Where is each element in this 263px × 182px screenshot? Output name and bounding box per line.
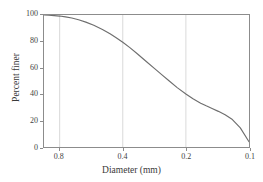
y-axis-tick-label: 80 <box>30 37 38 45</box>
x-axis-tick-label: 0.1 <box>245 153 255 161</box>
y-axis-tick-label: 20 <box>30 117 38 125</box>
y-axis-tick-mark <box>40 14 43 15</box>
y-axis-tick-mark <box>40 41 43 42</box>
y-axis-tick-mark <box>40 68 43 69</box>
x-axis-tick-mark <box>123 148 124 151</box>
x-axis-tick-label: 0.2 <box>181 153 191 161</box>
y-axis-tick-mark <box>40 121 43 122</box>
plot-area <box>43 14 250 148</box>
y-axis-tick-label: 0 <box>34 144 38 152</box>
grid-lines <box>60 15 186 147</box>
y-axis-tick-label: 40 <box>30 90 38 98</box>
x-axis-tick-label: 0.8 <box>54 153 64 161</box>
y-axis-tick-mark <box>40 94 43 95</box>
y-axis-tick-mark <box>40 148 43 149</box>
plot-canvas <box>44 15 249 147</box>
x-axis-title: Diameter (mm) <box>0 165 263 176</box>
y-axis-title: Percent finer <box>11 33 22 123</box>
y-axis-tick-label: 100 <box>26 10 38 18</box>
y-axis-tick-label: 60 <box>30 64 38 72</box>
data-series-layer <box>44 15 249 142</box>
x-axis-tick-label: 0.4 <box>118 153 128 161</box>
x-axis-tick-mark <box>250 148 251 151</box>
x-axis-tick-mark <box>186 148 187 151</box>
data-series-line <box>44 15 249 142</box>
chart-figure: 020406080100 Percent finer 0.80.40.20.1 … <box>0 0 263 182</box>
x-axis-tick-mark <box>59 148 60 151</box>
x-axis-tick-labels: 0.80.40.20.1 <box>0 153 263 165</box>
